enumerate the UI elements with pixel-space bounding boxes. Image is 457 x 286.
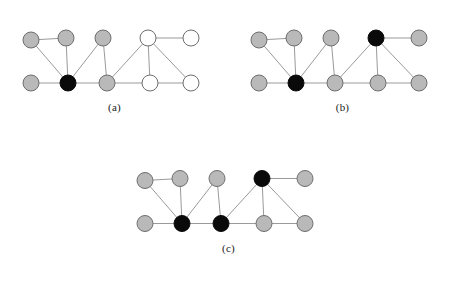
graph-node-gray[interactable]: [251, 75, 267, 91]
graph-node-gray[interactable]: [209, 171, 225, 187]
graph-edge: [182, 179, 217, 224]
graph-node-black[interactable]: [60, 75, 76, 91]
graph-node-gray[interactable]: [327, 75, 343, 91]
graph-node-gray[interactable]: [286, 30, 302, 46]
graph-node-gray[interactable]: [297, 216, 313, 232]
graph-edge: [68, 38, 103, 83]
graph-node-gray[interactable]: [95, 30, 111, 46]
graph-node-gray[interactable]: [411, 75, 427, 91]
graph-node-black[interactable]: [213, 216, 229, 232]
graph-node-white[interactable]: [140, 30, 156, 46]
graph-node-gray[interactable]: [256, 216, 272, 232]
graph-node-gray[interactable]: [137, 173, 153, 189]
graph-node-gray[interactable]: [58, 30, 74, 46]
caption-panel-c: (c): [114, 242, 343, 254]
caption-panel-b: (b): [228, 101, 457, 113]
graph-node-gray[interactable]: [323, 30, 339, 46]
graph-edge: [145, 181, 182, 224]
graph-node-gray[interactable]: [251, 32, 267, 48]
graph-panel-a: (a): [0, 0, 229, 125]
graph-node-black[interactable]: [174, 216, 190, 232]
graph-node-gray[interactable]: [297, 171, 313, 187]
graph-node-gray[interactable]: [23, 32, 39, 48]
graph-node-gray[interactable]: [172, 171, 188, 187]
graph-node-white[interactable]: [183, 75, 199, 91]
graph-node-gray[interactable]: [370, 75, 386, 91]
figure-graph-panels: (a) (b) (c): [0, 0, 457, 286]
graph-node-gray[interactable]: [23, 75, 39, 91]
graph-edge: [259, 40, 296, 83]
graph-node-gray[interactable]: [137, 216, 153, 232]
graph-edge: [335, 38, 376, 83]
graph-node-white[interactable]: [142, 75, 158, 91]
graph-edge: [107, 38, 148, 83]
graph-edge: [221, 179, 262, 224]
graph-edge: [296, 38, 331, 83]
graph-panel-b: (b): [228, 0, 457, 125]
graph-node-white[interactable]: [183, 30, 199, 46]
graph-node-black[interactable]: [288, 75, 304, 91]
graph-panel-c: (c): [114, 133, 343, 273]
graph-node-gray[interactable]: [411, 30, 427, 46]
caption-panel-a: (a): [0, 101, 229, 113]
graph-node-gray[interactable]: [99, 75, 115, 91]
graph-edge: [31, 40, 68, 83]
graph-node-black[interactable]: [368, 30, 384, 46]
graph-node-black[interactable]: [254, 171, 270, 187]
